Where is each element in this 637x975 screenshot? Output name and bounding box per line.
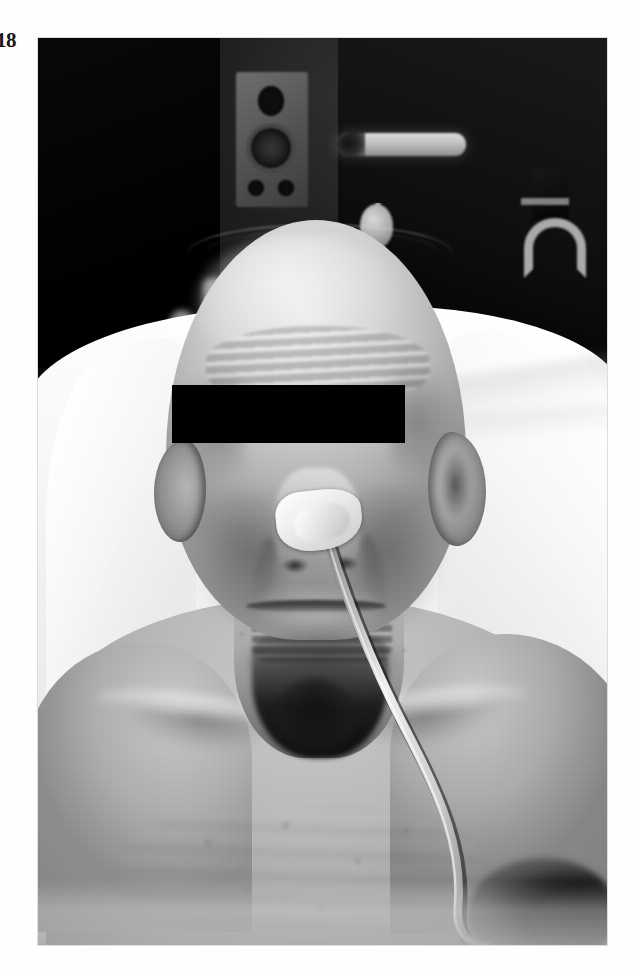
nostril-right (332, 556, 358, 571)
sheet-bottom-edge (38, 881, 607, 945)
speaker-icon (236, 72, 308, 207)
book-page: 18 (0, 0, 637, 975)
eye-censor-bar (172, 385, 405, 443)
clinical-photograph (38, 38, 607, 945)
ear-right-concha (440, 452, 470, 518)
strip-light-icon (337, 133, 466, 156)
speaker-port-left (248, 180, 264, 196)
wall-box (532, 168, 568, 220)
hair-wisp-lower (204, 230, 440, 277)
nostril-left (282, 558, 308, 573)
speaker-tweeter (258, 86, 284, 116)
wall-hook-icon (524, 218, 586, 278)
speaker-port-right (278, 180, 294, 196)
strip-light-cap (337, 133, 365, 156)
wall-hook-bar (521, 198, 569, 205)
facial-stubble (216, 598, 430, 718)
speaker-woofer (247, 124, 295, 172)
page-number: 18 (0, 27, 36, 53)
